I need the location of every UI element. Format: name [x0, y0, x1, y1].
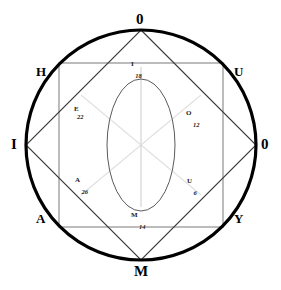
spoke-number-southeast: 6: [194, 189, 197, 196]
corner-label-lower-right: Y: [234, 212, 243, 225]
spoke-label-northwest: E22: [74, 106, 84, 121]
cardinal-label-top: 0: [136, 12, 144, 27]
spoke-number-northeast: 12: [193, 121, 200, 128]
corner-label-upper-left: H: [36, 65, 46, 78]
spoke-line-northwest: [81, 95, 141, 145]
spoke-number-northwest: 22: [77, 114, 84, 121]
spoke-lines-group: [81, 67, 201, 207]
spoke-number-north: 18: [135, 72, 142, 79]
spoke-label-northeast: O12: [186, 110, 199, 126]
spoke-letter-southwest: A: [75, 176, 80, 184]
spoke-number-south: 14: [139, 223, 146, 230]
spoke-line-southwest: [81, 145, 141, 195]
spoke-letter-north: I: [131, 60, 134, 68]
spoke-letter-south: M: [131, 211, 138, 219]
corner-label-lower-left: A: [36, 212, 45, 225]
geometric-diagram-figure: 0 I 0 M H U A Y I18 E22 O12 A26 U6 M14: [0, 0, 281, 290]
cardinal-label-bottom: M: [134, 264, 148, 279]
spoke-letter-northeast: O: [186, 109, 191, 117]
cardinal-label-left: I: [11, 137, 17, 152]
spoke-number-southwest: 26: [82, 188, 89, 195]
spoke-letter-northwest: E: [74, 106, 84, 113]
spoke-label-south: M14: [131, 212, 146, 228]
diagram-canvas: [0, 0, 281, 290]
spoke-label-north: I18: [131, 61, 142, 77]
spoke-label-southeast: U6: [187, 178, 197, 194]
spoke-label-southwest: A26: [75, 177, 88, 193]
corner-label-upper-right: U: [234, 65, 243, 78]
spoke-letter-southeast: U: [187, 177, 192, 185]
cardinal-label-right: 0: [261, 137, 269, 152]
